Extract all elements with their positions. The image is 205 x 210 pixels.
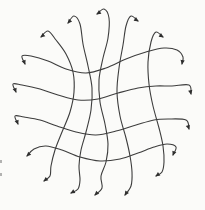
horizontal-curve-3 — [15, 116, 189, 135]
horizontal-curve-4 — [27, 144, 176, 161]
vertical-curve-4 — [117, 16, 138, 195]
page-edge-mark-2 — [0, 173, 2, 176]
edge-artifacts-layer — [0, 160, 2, 176]
tangled-curves-figure — [0, 0, 205, 210]
vertical-curve-1 — [41, 31, 74, 181]
vertical-curve-5 — [148, 32, 164, 176]
curves-layer — [13, 9, 191, 195]
page-edge-mark-1 — [0, 160, 2, 163]
horizontal-curve-2 — [13, 84, 191, 101]
figure-svg — [0, 0, 205, 210]
vertical-curve-3 — [95, 9, 109, 195]
